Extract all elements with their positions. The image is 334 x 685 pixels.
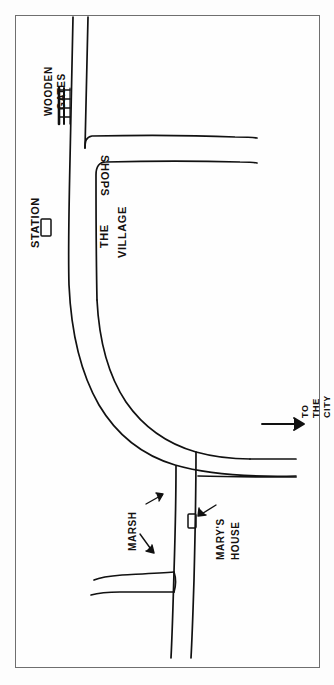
marys-house-arrow-icon bbox=[198, 505, 216, 516]
label-to-the-city-3: CITY bbox=[323, 395, 332, 418]
label-the-village-2: VILLAGE bbox=[117, 206, 129, 258]
label-to-the-city-line2: THE bbox=[312, 398, 321, 418]
road-north-east-edge bbox=[85, 17, 88, 148]
label-to-the-city-line3: CITY bbox=[323, 395, 332, 418]
label-marsh: MARSH bbox=[128, 511, 139, 551]
label-wooden-gates: WOODEN bbox=[44, 66, 55, 116]
road-south-lane-west-edge bbox=[171, 466, 176, 658]
map-page: WOODEN GATES STATION SHOPS THE VILLAGE T… bbox=[0, 0, 334, 685]
road-village-street-north-kerb bbox=[85, 135, 257, 148]
label-shops: SHOPS bbox=[98, 155, 110, 197]
road-west-branch-south-kerb bbox=[91, 592, 174, 595]
road-south-lane-east-edge bbox=[191, 452, 196, 658]
road-west-branch-north-kerb bbox=[94, 572, 174, 580]
label-marys-house-line2: HOUSE bbox=[231, 521, 242, 560]
label-marys-house-line1: MARY'S bbox=[216, 518, 227, 560]
marsh-arrow-icon-lower bbox=[140, 534, 154, 553]
label-marys-house: MARY'S bbox=[216, 518, 227, 560]
label-station-text: STATION bbox=[29, 197, 41, 248]
label-to-the-city-line1: TO bbox=[301, 404, 310, 418]
label-the-village: THE bbox=[99, 224, 111, 248]
label-to-the-city: TO bbox=[301, 404, 310, 418]
road-to-city-south-kerb bbox=[198, 476, 296, 477]
label-to-the-city-2: THE bbox=[312, 398, 321, 418]
road-main-curve-inner-kerb bbox=[97, 300, 250, 459]
label-the-village-line2: VILLAGE bbox=[117, 206, 129, 258]
label-wooden-gates-line1: WOODEN bbox=[44, 66, 55, 116]
label-the-village-line1: THE bbox=[99, 224, 111, 248]
label-marsh-text: MARSH bbox=[127, 511, 138, 551]
to-the-city-arrow-icon bbox=[262, 418, 304, 430]
marsh-arrow-icon-upper bbox=[146, 493, 163, 504]
label-marys-house-2: HOUSE bbox=[231, 521, 242, 560]
label-shops-text: SHOPS bbox=[99, 155, 111, 197]
label-wooden-gates-2: GATES bbox=[57, 73, 68, 110]
label-wooden-gates-line2: GATES bbox=[57, 73, 68, 110]
label-station: STATION bbox=[30, 197, 42, 248]
station-building-symbol bbox=[41, 219, 51, 236]
